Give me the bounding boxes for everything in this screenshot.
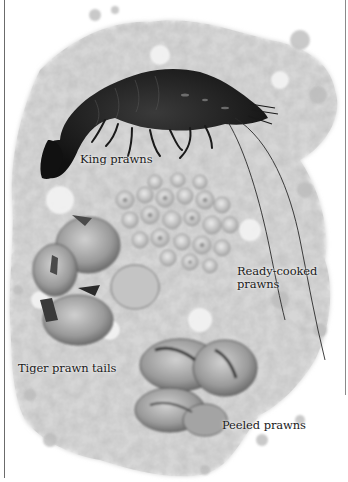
label-tiger-prawn-tails: Tiger prawn tails: [18, 362, 116, 375]
label-ready-cooked-prawns: Ready-cooked prawns: [237, 265, 317, 291]
label-tiger-prawn-tails-text: Tiger prawn tails: [18, 361, 116, 375]
label-ready-cooked-line2: prawns: [237, 278, 317, 291]
illustration-page: King prawns Ready-cooked prawns Tiger pr…: [0, 0, 348, 482]
label-peeled-prawns: Peeled prawns: [222, 419, 306, 432]
right-margin-rule: [345, 0, 346, 395]
label-king-prawns-text: King prawns: [80, 152, 152, 166]
left-margin-rule: [4, 0, 5, 478]
prawns-on-ice-photo: [0, 0, 348, 482]
label-king-prawns: King prawns: [80, 153, 152, 166]
label-peeled-prawns-text: Peeled prawns: [222, 418, 306, 432]
